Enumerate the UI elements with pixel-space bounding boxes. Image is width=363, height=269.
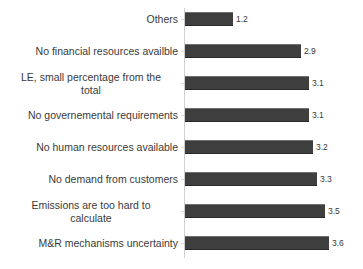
bar-row: No human resources available 3.2 — [0, 132, 363, 163]
category-label: Others — [4, 4, 178, 35]
bar — [185, 108, 309, 122]
bar — [185, 236, 329, 250]
bar — [185, 172, 317, 186]
bar — [185, 76, 309, 90]
bar-value-label: 3.1 — [312, 78, 324, 89]
bar-row: Others 1.2 — [0, 4, 363, 35]
category-label: No governemental requirements — [4, 100, 178, 131]
axis-tick — [181, 51, 184, 52]
bar-value-label: 2.9 — [304, 46, 316, 57]
axis-tick — [181, 243, 184, 244]
bar-value-label: 3.1 — [312, 110, 324, 121]
category-label: No financial resources availble — [4, 36, 178, 67]
bar — [185, 44, 301, 58]
axis-tick — [181, 83, 184, 84]
bar — [185, 140, 313, 154]
bar-chart: Others 1.2 No financial resources availb… — [0, 0, 363, 269]
bar-row: M&R mechanisms uncertainty 3.6 — [0, 228, 363, 259]
axis-tick — [181, 147, 184, 148]
category-label: LE, small percentage from the total — [2, 68, 180, 99]
axis-tick — [181, 115, 184, 116]
category-label: No demand from customers — [4, 164, 178, 195]
bar — [185, 12, 233, 26]
axis-tick — [181, 179, 184, 180]
bar-value-label: 1.2 — [236, 14, 248, 25]
category-label: No human resources available — [4, 132, 178, 163]
axis-tick — [181, 19, 184, 20]
axis-tick — [181, 211, 184, 212]
bar — [185, 204, 325, 218]
bar-row: Emissions are too hard to calculate 3.5 — [0, 196, 363, 227]
bar-row: No governemental requirements 3.1 — [0, 100, 363, 131]
category-label: Emissions are too hard to calculate — [2, 196, 180, 227]
bar-row: LE, small percentage from the total 3.1 — [0, 68, 363, 99]
bar-rows: Others 1.2 No financial resources availb… — [0, 0, 363, 269]
bar-row: No financial resources availble 2.9 — [0, 36, 363, 67]
category-label: M&R mechanisms uncertainty — [4, 228, 178, 259]
bar-value-label: 3.6 — [332, 238, 344, 249]
bar-value-label: 3.3 — [320, 174, 332, 185]
bar-value-label: 3.5 — [328, 206, 340, 217]
bar-value-label: 3.2 — [316, 142, 328, 153]
bar-row: No demand from customers 3.3 — [0, 164, 363, 195]
